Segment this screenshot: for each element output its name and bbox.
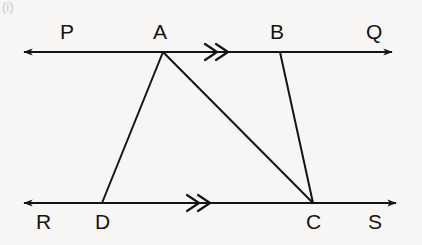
label-S: S (368, 211, 382, 232)
label-R: R (36, 211, 51, 232)
label-C: C (306, 211, 321, 232)
label-B: B (270, 21, 284, 42)
segment-AC (163, 52, 313, 203)
label-A: A (153, 21, 167, 42)
label-D: D (95, 211, 110, 232)
geometry-figure: (i) (0, 0, 422, 245)
label-P: P (60, 21, 74, 42)
segment-AD (102, 52, 163, 203)
label-Q: Q (366, 21, 382, 42)
segment-BC (280, 52, 313, 203)
